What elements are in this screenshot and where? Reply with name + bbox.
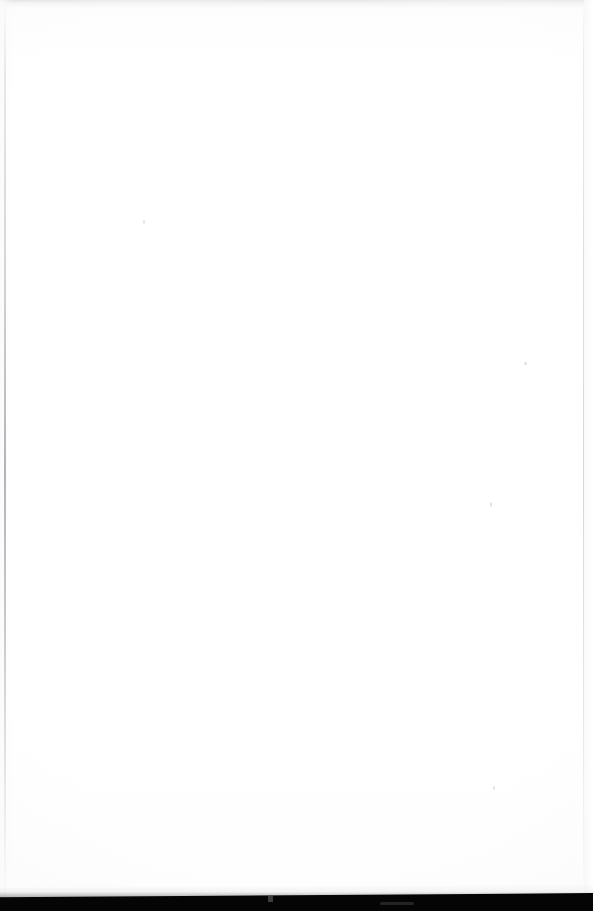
bottom-band-scuff xyxy=(268,896,273,902)
bottom-band-scuff xyxy=(380,902,414,905)
dust-speck xyxy=(524,362,527,365)
dust-speck xyxy=(143,220,145,224)
page-trim-edge-right xyxy=(583,0,584,895)
gutter-shadow-left xyxy=(0,0,12,911)
dust-speck xyxy=(493,786,495,790)
top-edge-hairline xyxy=(0,0,593,2)
gutter-spine-line xyxy=(4,0,6,900)
page-trim-edge-right-soft xyxy=(584,0,593,895)
paper-surface xyxy=(0,0,593,911)
scanned-page: Blank scanned page xyxy=(0,0,593,911)
top-edge-band xyxy=(0,0,593,9)
dust-speck xyxy=(490,502,492,507)
